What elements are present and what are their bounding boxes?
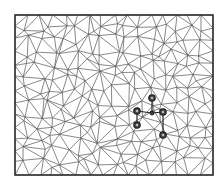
mesh-edge [27,52,36,57]
mesh-edge [189,97,205,104]
mesh-edge [15,26,24,30]
mesh-edge [44,99,47,100]
mesh-edge [26,57,27,64]
mesh-edge [88,31,93,34]
highlighted-node-center [136,124,139,127]
mesh-edge [132,141,138,154]
mesh-edge [76,45,79,51]
mesh-edge [115,116,117,127]
mesh-edge [141,54,152,56]
mesh-edge [48,26,67,27]
mesh-edge [115,75,129,83]
mesh-edge [27,35,28,57]
mesh-edge [175,158,184,162]
mesh-edge [154,109,160,111]
mesh-edge [25,117,37,129]
mesh-edge [140,60,153,69]
mesh-edge [88,15,89,34]
mesh-edge [78,68,100,71]
mesh-edge [199,56,200,63]
mesh-edge [135,89,142,101]
mesh-edge [154,129,156,140]
mesh-edge [79,159,84,162]
mesh-edge [161,103,177,105]
mesh-edge [175,162,176,175]
mesh-edge [192,15,201,25]
mesh-edge [140,69,150,87]
mesh-edge [24,30,28,35]
mesh-edge [123,162,128,175]
mesh-edge [129,84,134,89]
highlighted-node [150,111,154,115]
mesh-edge [201,31,213,40]
mesh-edge [152,15,156,27]
mesh-edge [74,26,76,45]
mesh-edge [199,56,213,63]
mesh-edge [74,26,88,34]
mesh-edge [51,167,52,175]
mesh-edge [81,138,93,153]
mesh-edge [155,27,157,39]
mesh-edge [198,148,205,158]
mesh-edge [164,61,165,75]
mesh-edge [129,84,130,107]
mesh-edge [42,118,52,119]
mesh-edge [141,56,153,60]
mesh-edge [111,84,129,85]
mesh-edge [177,97,189,103]
mesh-edge [53,15,67,26]
mesh-edge [121,154,123,162]
mesh-edge [186,63,199,66]
mesh-edge [91,127,97,143]
mesh-edge [178,64,186,67]
mesh-edge [138,142,141,155]
mesh-edge [48,15,53,27]
mesh-edge [188,55,199,63]
mesh-edge [138,154,146,160]
mesh-edge [97,139,117,143]
mesh-edge [79,162,91,175]
mesh-edge [140,69,154,79]
mesh-edge [115,126,117,139]
mesh-edge [85,81,92,89]
mesh-edge [186,66,193,74]
mesh-edge [76,162,79,175]
mesh-edge [52,167,63,175]
mesh-edge [166,76,173,90]
mesh-edge [152,54,153,60]
mesh-edge [166,15,177,24]
mesh-edge [128,56,140,64]
mesh-edge [179,125,187,136]
mesh-edge [93,36,99,54]
mesh-edge [117,139,118,145]
mesh-edge [66,15,67,26]
mesh-edge [74,96,82,118]
mesh-edge [116,64,129,66]
mesh-edge [183,40,188,55]
mesh-edge [117,116,129,125]
mesh-edge [41,94,44,99]
mesh-edge [177,151,184,158]
mesh-edge [97,126,115,143]
mesh-edge [122,72,129,83]
mesh-edge [175,15,177,31]
mesh-edge [160,146,177,151]
mesh-edge [173,103,177,112]
mesh-edge [196,112,213,114]
mesh-edge [99,52,119,55]
mesh-edge [173,112,188,114]
mesh-edge [99,34,116,35]
mesh-edge [82,96,88,100]
mesh-edge [93,106,98,111]
mesh-edge [129,72,134,83]
mesh-edge [178,131,179,137]
mesh-edge [41,79,45,94]
mesh-edge [199,63,213,76]
mesh-edge [205,104,213,114]
mesh-edge [123,15,128,25]
mesh-edge [112,106,117,115]
mesh-edge [63,39,76,45]
mesh-edge [101,15,116,27]
mesh-edge [59,134,80,138]
mesh-edge [23,147,45,150]
